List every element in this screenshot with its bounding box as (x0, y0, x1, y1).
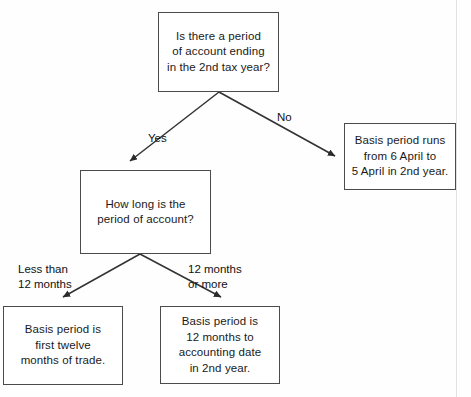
edge-label-less-than-12-months: Less than 12 months (18, 262, 72, 291)
decision-node-period-of-account-in-2nd-tax-year: Is there a period of account ending in t… (158, 12, 279, 92)
edge-label-12-months-or-more: 12 months or more (188, 262, 242, 291)
decision-node-length-of-period-of-account: How long is the period of account? (80, 170, 211, 254)
connector-less-than-12-months (63, 254, 140, 297)
outcome-node-basis-period-6-april-to-5-april: Basis period runs from 6 April to 5 Apri… (344, 123, 456, 190)
edge-label-no: No (277, 110, 292, 125)
flowchart-canvas: Is there a period of account ending in t… (0, 0, 471, 397)
edge-label-yes: Yes (148, 131, 167, 146)
outcome-node-basis-period-first-twelve-months: Basis period is first twelve months of t… (3, 306, 123, 385)
outcome-node-basis-period-12-months-to-accounting-date: Basis period is 12 months to accounting … (160, 306, 280, 384)
page-edge-line (456, 0, 457, 397)
connector-yes (130, 92, 219, 161)
